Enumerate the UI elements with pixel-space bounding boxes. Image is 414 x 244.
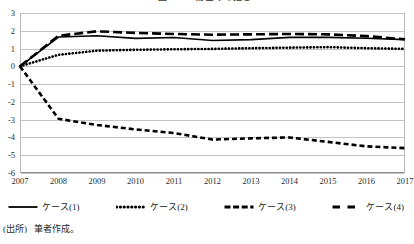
legend-swatch-dashed-icon: [224, 202, 254, 212]
legend-swatch-dotted-icon: [116, 202, 146, 212]
source-note: (出所)筆者作成。: [3, 224, 79, 235]
y-tick-label: -1: [8, 80, 15, 89]
y-tick-label: 3: [11, 9, 15, 18]
source-label: (出所): [3, 224, 27, 234]
chart-legend: ケース(1)ケース(2)ケース(3)ケース(4): [8, 198, 404, 216]
gridline: [21, 173, 404, 174]
x-tick-label: 2011: [166, 176, 183, 186]
y-tick-label: -2: [8, 98, 15, 107]
legend-item-4[interactable]: ケース(4): [332, 202, 404, 212]
x-tick-label: 2007: [12, 176, 29, 186]
x-tick-label: 2017: [397, 176, 414, 186]
legend-label: ケース(1): [42, 202, 80, 212]
series-layer: [20, 13, 405, 173]
chart-title: 図5－6 貯蓄率の推移: [0, 0, 410, 1]
series-line-2: [20, 47, 405, 66]
legend-swatch-long-dashed-icon: [332, 202, 362, 212]
legend-item-2[interactable]: ケース(2): [116, 202, 188, 212]
x-tick-label: 2008: [50, 176, 67, 186]
y-tick-label: 1: [11, 44, 15, 53]
x-tick-label: 2015: [320, 176, 337, 186]
x-axis-labels: 2007200820092010201120122013201420152016…: [20, 176, 405, 190]
y-tick-label: -3: [8, 115, 15, 124]
legend-label: ケース(3): [258, 202, 296, 212]
y-tick-label: 2: [11, 27, 15, 36]
x-tick-label: 2014: [281, 176, 298, 186]
x-tick-label: 2012: [204, 176, 221, 186]
legend-label: ケース(2): [150, 202, 188, 212]
x-tick-label: 2016: [358, 176, 375, 186]
y-tick-label: -5: [8, 151, 15, 160]
x-tick-label: 2010: [127, 176, 144, 186]
legend-item-1[interactable]: ケース(1): [8, 202, 80, 212]
legend-item-3[interactable]: ケース(3): [224, 202, 296, 212]
x-tick-label: 2013: [243, 176, 260, 186]
series-line-3: [20, 66, 405, 148]
y-tick-label: 0: [11, 62, 15, 71]
legend-swatch-solid-icon: [8, 202, 38, 212]
source-text: 筆者作成。: [34, 224, 79, 234]
legend-label: ケース(4): [366, 202, 404, 212]
y-axis-labels: 3210-1-2-3-4-5-6: [0, 13, 18, 173]
series-line-1: [20, 36, 405, 67]
y-tick-label: -4: [8, 133, 15, 142]
x-tick-label: 2009: [89, 176, 106, 186]
